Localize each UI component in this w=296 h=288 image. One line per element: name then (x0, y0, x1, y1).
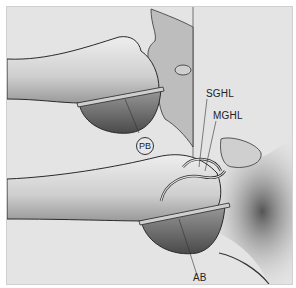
label-sghl: SGHL (206, 88, 234, 99)
label-mghl: MGHL (213, 110, 243, 121)
label-pb: PB (136, 137, 154, 155)
lower-coracoid (221, 138, 262, 168)
upper-coracoid (175, 65, 191, 75)
label-ab: AB (193, 272, 207, 283)
illustration-frame: SGHL MGHL PB AB (6, 6, 293, 285)
